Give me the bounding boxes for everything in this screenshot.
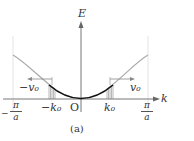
left-bound-denominator: a: [13, 113, 18, 122]
neg-velocity-label: −v₀: [19, 82, 39, 93]
k-axis-arrow-icon: [153, 97, 160, 102]
right-bound-label: π a: [141, 101, 153, 122]
pos-velocity-label: v₀: [130, 82, 141, 93]
e-axis-label: E: [78, 8, 86, 19]
left-bound-label: π a: [10, 101, 22, 122]
e-axis-arrow-icon: [79, 21, 84, 28]
left-bound-numerator: π: [13, 101, 19, 110]
right-bound-denominator: a: [144, 113, 149, 122]
figure-caption: (a): [70, 123, 84, 134]
band-diagram: [0, 0, 194, 141]
neg-k0-label: −k₀: [41, 102, 61, 113]
origin-label: O: [70, 102, 79, 113]
curve-outer-right: [107, 55, 148, 89]
right-bound-numerator: π: [144, 101, 150, 110]
pos-k0-label: k₀: [104, 102, 115, 113]
left-bound-sign: −: [1, 108, 9, 119]
k-axis-label: k: [161, 93, 168, 104]
